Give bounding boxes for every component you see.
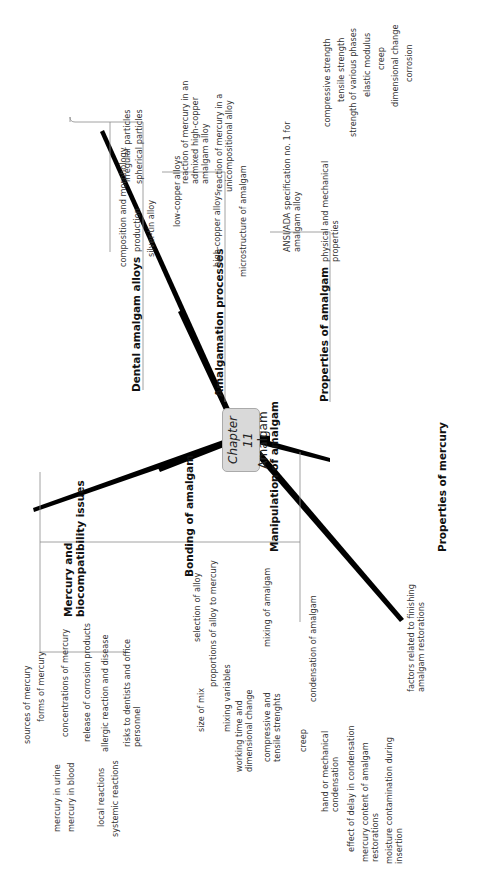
node-spherical-particles[interactable]: spherical particles [134, 109, 144, 184]
node-local-reactions[interactable]: local reactions [96, 768, 106, 827]
branch-amalgamation-processes[interactable]: Amalgamation processes [213, 249, 225, 397]
node-high-copper-alloys[interactable]: high-copper alloys [212, 192, 222, 267]
node-effect-of-delay[interactable]: effect of delay in condensation [346, 725, 356, 852]
node-compressive-tensile[interactable]: compressive and tensile strenghts [262, 672, 282, 762]
branch-mercury-biocompatibility[interactable]: Mercury and biocompatibility issues [62, 477, 86, 617]
chapter-label: Chapter 11 [226, 409, 256, 471]
node-admixed-reaction[interactable]: reaction of mercury in an admixed high-c… [180, 74, 210, 184]
node-moisture-contamination[interactable]: moisture contamination during insertion [384, 729, 404, 864]
node-allergic-reaction[interactable]: allergic reaction and disease [100, 634, 110, 752]
node-release-corrosion-products[interactable]: release of corrosion products [82, 623, 92, 742]
node-creep[interactable]: creep [376, 47, 386, 70]
central-topic-node[interactable]: Chapter 11 Amalgam [222, 408, 260, 472]
node-silver-tin-alloy[interactable]: silver-tin alloy [146, 200, 156, 257]
branch-properties-of-amalgam[interactable]: Properties of amalgam [318, 267, 330, 402]
node-tensile-strength[interactable]: tensile strength [336, 38, 346, 102]
node-unicompositional-reaction[interactable]: reaction of mercury in a unicompositiona… [214, 92, 234, 192]
node-forms-of-mercury[interactable]: forms of mercury [36, 651, 46, 722]
node-hand-mechanical[interactable]: hand or mechanical condensation [320, 722, 340, 812]
node-concentrations-of-mercury[interactable]: concentrations of mercury [60, 629, 70, 737]
mind-map-canvas: Chapter 11 Amalgam Dental amalgam alloys… [0, 0, 479, 872]
node-finishing-factors[interactable]: factors related to finishing amalgam res… [406, 572, 426, 692]
node-manipulation-creep[interactable]: creep [298, 729, 308, 752]
node-sources-of-mercury[interactable]: sources of mercury [22, 665, 32, 744]
node-elastic-modulus[interactable]: elastic modulus [362, 33, 372, 97]
branch-manipulation-of-amalgam[interactable]: Manipulation of amalgam [268, 401, 280, 552]
node-mixing-of-amalgam[interactable]: mixing of amalgam [262, 568, 272, 647]
node-corrosion[interactable]: corrosion [404, 44, 414, 82]
branch-properties-of-mercury[interactable]: Properties of mercury [436, 422, 448, 552]
node-working-time[interactable]: working time and dimensional change [234, 672, 254, 772]
node-microstructure[interactable]: microstructure of amalgam [238, 165, 248, 277]
node-mercury-in-blood[interactable]: mercury in blood [66, 763, 76, 832]
branch-bonding-of-amalgam[interactable]: Bonding of amalgam [183, 455, 195, 577]
node-ansi-ada-spec[interactable]: ANSI/ADA specification no. 1 for amalgam… [282, 117, 302, 252]
node-systemic-reactions[interactable]: systemic reactions [110, 760, 120, 837]
node-risks-dentists[interactable]: risks to dentists and office personnel [122, 632, 142, 747]
node-dimensional-change[interactable]: dimensional change [390, 25, 400, 107]
node-irregular-particles[interactable]: irregular particles [122, 109, 132, 182]
node-size-of-mix[interactable]: size of mix [196, 688, 206, 732]
node-mercury-in-urine[interactable]: mercury in urine [52, 764, 62, 832]
node-mercury-content[interactable]: mercury content of amalgam restorations [360, 742, 380, 862]
branch-dental-amalgam-alloys[interactable]: Dental amalgam alloys [130, 257, 142, 392]
node-mixing-variables[interactable]: mixing variables [222, 664, 232, 732]
node-proportions-alloy-mercury[interactable]: proportions of alloy to mercury [208, 560, 218, 687]
node-production[interactable]: production [132, 208, 142, 252]
node-compressive-strength[interactable]: compressive strength [322, 38, 332, 127]
node-selection-of-alloy[interactable]: selection of alloy [192, 573, 202, 642]
node-condensation-of-amalgam[interactable]: condensation of amalgam [308, 595, 318, 702]
node-strength-various-phases[interactable]: strength of various phases [348, 28, 358, 137]
node-physical-mechanical[interactable]: physical and mechanical properties [320, 152, 340, 262]
